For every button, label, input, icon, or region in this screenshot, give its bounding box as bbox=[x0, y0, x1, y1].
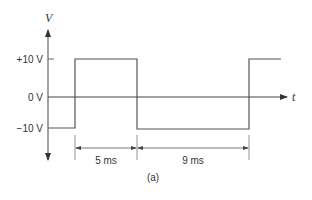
y-axis-label: V bbox=[45, 11, 54, 25]
waveform-diagram: V +10 V 0 V −10 V t 5 ms 9 ms (a) bbox=[0, 0, 312, 200]
label-5ms: 5 ms bbox=[95, 155, 117, 166]
square-waveform bbox=[48, 59, 281, 129]
x-axis-label: t bbox=[292, 90, 296, 104]
figure-caption: (a) bbox=[147, 172, 159, 183]
label-9ms: 9 ms bbox=[182, 155, 204, 166]
label-zero-level: 0 V bbox=[28, 92, 43, 103]
label-high-level: +10 V bbox=[17, 54, 44, 65]
label-low-level: −10 V bbox=[17, 123, 44, 134]
